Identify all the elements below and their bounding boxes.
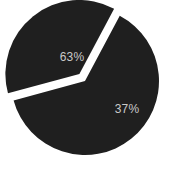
pie-slice-label-37: 37% — [115, 102, 140, 116]
pie-chart-canvas: 63% 37% — [0, 0, 185, 177]
pie-chart-figure: 63% 37% — [0, 0, 185, 177]
pie-slice-label-63: 63% — [60, 50, 85, 64]
